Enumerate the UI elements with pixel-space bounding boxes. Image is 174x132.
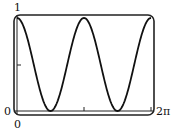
y-max-label: 1 [14, 2, 21, 13]
plot-frame [14, 15, 154, 115]
y-min-label: 0 [4, 106, 11, 117]
chart-canvas [0, 0, 174, 132]
x-max-label: 2π [156, 106, 170, 117]
x-min-label: 0 [14, 119, 21, 130]
cos-squared-curve [17, 18, 151, 111]
